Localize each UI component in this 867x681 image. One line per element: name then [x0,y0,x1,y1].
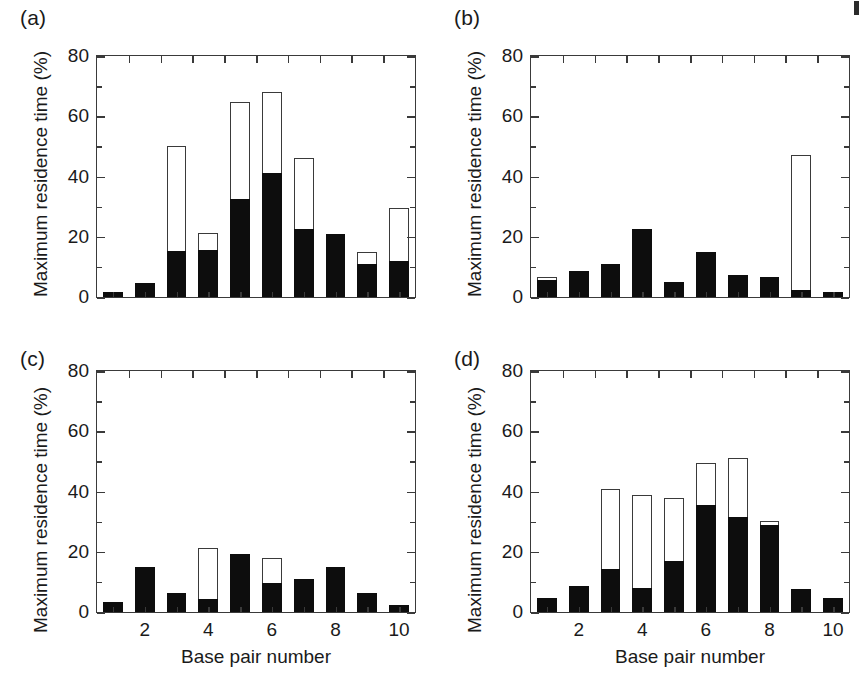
x-tick-top [722,56,724,63]
bar-solid-segment [760,525,780,612]
y-tick-left-major [97,371,105,373]
x-tick-top [626,56,628,63]
y-tick-left-major [97,431,105,433]
y-tick-left-minor [531,582,536,584]
bar-solid-segment [167,251,187,297]
x-tick-top [563,371,565,378]
y-tick-right-minor [410,582,415,584]
x-tick-label: 10 [823,619,844,641]
x-tick-bottom [208,607,210,612]
x-tick-bottom [738,607,740,612]
y-tick-right-minor [410,461,415,463]
panel-c: (c) Maximum residence time (%) 020406080… [0,341,433,681]
x-tick-top [224,371,226,378]
x-tick-bottom [208,292,210,297]
x-tick-bottom [611,607,613,612]
x-tick-top [563,56,565,63]
x-tick-label: 8 [330,619,341,641]
x-tick-bottom [240,292,242,297]
x-tick-bottom [801,607,803,612]
panel-a: (a) Maximum residence time (%) 020406080 [0,0,433,340]
bar-d-bp4 [632,495,652,612]
x-tick-bottom [770,292,772,297]
y-tick-right-major [841,612,849,614]
panel-a-bars [97,56,415,297]
panel-b-y-axis-title: Maximum residence time (%) [464,51,486,297]
x-tick-bottom [738,292,740,297]
y-tick-label: 40 [68,481,89,503]
bar-solid-segment [198,250,218,297]
x-tick-top [722,371,724,378]
y-tick-right-major [407,237,415,239]
x-tick-top [192,371,194,378]
bar-solid-segment [326,567,346,612]
figure-four-panel-bar-charts: (a) Maximum residence time (%) 020406080… [0,0,867,681]
y-tick-right-minor [410,267,415,269]
y-tick-right-minor [844,86,849,88]
x-tick-top [129,371,131,378]
bar-c-bp2 [135,567,155,612]
bar-b-bp9 [791,155,811,297]
x-tick-bottom [145,607,147,612]
y-tick-right-minor [410,207,415,209]
y-tick-left-minor [531,267,536,269]
x-tick-bottom [304,607,306,612]
y-tick-right-major [407,297,415,299]
bar-solid-segment [696,252,716,297]
y-tick-right-major [407,371,415,373]
y-tick-left-major [531,56,539,58]
x-tick-top [383,371,385,378]
y-tick-left-minor [531,146,536,148]
x-tick-top [224,56,226,63]
y-tick-left-minor [97,86,102,88]
panel-b-bars [531,56,849,297]
y-tick-right-minor [844,522,849,524]
x-tick-bottom [642,292,644,297]
panel-c-plot-area: 020406080246810 Base pair number [96,370,416,613]
x-tick-bottom [642,607,644,612]
x-tick-top [817,56,819,63]
x-tick-top [383,56,385,63]
x-tick-top [256,371,258,378]
y-tick-label: 80 [502,45,523,67]
y-tick-right-minor [410,86,415,88]
x-tick-top [129,56,131,63]
y-tick-right-major [407,116,415,118]
bar-d-bp6 [696,463,716,612]
y-tick-left-major [97,297,105,299]
bar-solid-segment [632,229,652,297]
panel-c-label: (c) [20,347,45,371]
bar-solid-segment [601,569,621,612]
bar-solid-segment [326,234,346,297]
x-tick-label: 2 [139,619,150,641]
x-tick-bottom [145,292,147,297]
bar-solid-segment [728,517,748,612]
bar-a-bp7 [294,158,314,297]
x-tick-bottom [579,607,581,612]
y-tick-right-major [407,431,415,433]
y-tick-left-major [531,371,539,373]
y-tick-left-major [531,552,539,554]
bar-d-bp5 [664,498,684,612]
y-tick-left-minor [531,207,536,209]
x-tick-bottom [674,607,676,612]
bar-a-bp9 [357,252,377,297]
y-tick-label: 20 [68,226,89,248]
y-tick-right-major [841,492,849,494]
x-tick-bottom [770,607,772,612]
x-tick-top [754,56,756,63]
x-tick-bottom [833,607,835,612]
bar-solid-segment [230,199,250,297]
y-tick-left-major [97,177,105,179]
x-tick-top [658,56,660,63]
y-tick-right-major [841,552,849,554]
bar-solid-segment [230,554,250,612]
x-tick-label: 8 [764,619,775,641]
panel-c-x-axis-title: Base pair number [97,646,415,668]
bar-solid-segment [294,229,314,297]
y-tick-right-minor [844,267,849,269]
x-tick-top [351,371,353,378]
panel-a-y-axis-title: Maximum residence time (%) [30,51,52,297]
y-tick-right-major [841,56,849,58]
x-tick-bottom [801,292,803,297]
